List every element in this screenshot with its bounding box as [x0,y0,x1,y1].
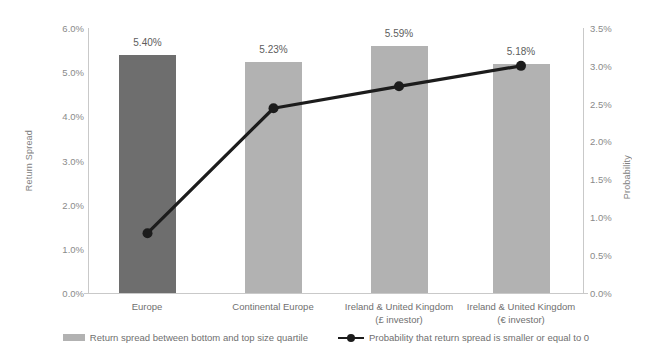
bar-value-ireland-uk-gbp: 5.59% [354,28,444,39]
bar-value-continental-europe: 5.23% [229,44,319,55]
probability-line-series [0,0,652,294]
chart-container: Return Spread Probability 0.0% 1.0% 2.0%… [0,0,652,364]
x-tick-label-continental-europe: Continental Europe [200,300,346,313]
legend-swatch-icon [63,334,85,341]
line-marker-0[interactable] [143,228,153,238]
bar-value-ireland-uk-eur: 5.18% [476,46,566,57]
legend-line-marker-icon [338,333,364,343]
legend-label-bar: Return spread between bottom and top siz… [90,332,308,343]
x-tick-label-ireland-uk-eur: Ireland & United Kingdom (€ investor) [448,300,594,326]
x-tick-label-line1: Europe [74,300,220,313]
legend-item-line[interactable]: Probability that return spread is smalle… [338,332,589,343]
chart-legend: Return spread between bottom and top siz… [0,332,652,343]
legend-label-line: Probability that return spread is smalle… [369,332,589,343]
legend-item-bar[interactable]: Return spread between bottom and top siz… [63,332,308,343]
x-tick-label-line1: Ireland & United Kingdom [448,300,594,313]
bar-value-europe: 5.40% [103,37,193,48]
x-tick-label-europe: Europe [74,300,220,313]
line-marker-3[interactable] [516,61,526,71]
x-tick-label-line1: Continental Europe [200,300,346,313]
line-marker-2[interactable] [394,81,404,91]
line-marker-1[interactable] [269,103,279,113]
x-tick-label-line2: (€ investor) [448,313,594,326]
